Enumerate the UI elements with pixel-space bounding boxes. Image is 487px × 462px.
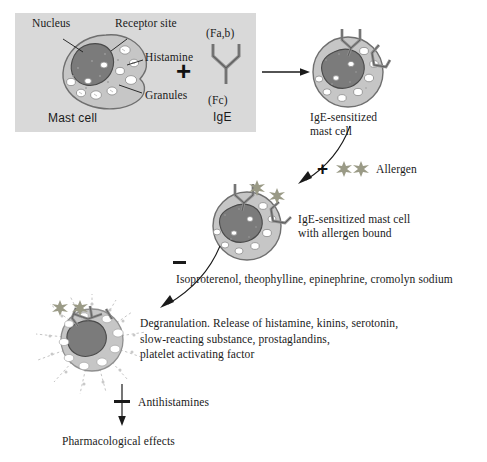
antibody-label-fab: (Fa,b) xyxy=(206,26,234,40)
label-degranulation-products: Degranulation. Release of histamine, kin… xyxy=(140,316,398,363)
label-bound-mast-cell: IgE-sensitized mast cell with allergen b… xyxy=(298,212,410,240)
degranulating-mast-cell-illustration xyxy=(28,288,156,398)
legend-label-receptor-site: Receptor site xyxy=(115,16,177,30)
degranulation-allergen-particles xyxy=(52,300,92,316)
ige-antibody-illustration xyxy=(207,42,245,92)
figure-canvas: Nucleus Receptor site Histamine Granules… xyxy=(0,0,487,462)
label-antihistamines: Antihistamines xyxy=(138,395,209,409)
legend-label-granules: Granules xyxy=(145,88,187,102)
allergen-plus-sign: + xyxy=(317,159,328,178)
label-inhibitor-drugs: Isoproterenol, theophylline, epinephrine… xyxy=(176,272,453,286)
antihistamine-minus-sign xyxy=(114,400,130,403)
legend-plus-sign: + xyxy=(176,58,191,84)
antibody-label-ige: IgE xyxy=(213,110,232,125)
legend-label-nucleus: Nucleus xyxy=(32,16,70,30)
label-allergen: Allergen xyxy=(376,162,417,176)
arrow-to-pharmacological-effects xyxy=(112,384,132,428)
inhibitor-minus-sign xyxy=(173,261,186,264)
sensitized-mast-cell-illustration xyxy=(306,28,392,110)
antibody-label-fc: (Fc) xyxy=(208,93,228,107)
allergen-particle-icon xyxy=(336,161,370,177)
legend-label-mast-cell: Mast cell xyxy=(48,111,97,126)
label-pharmacological-effects: Pharmacological effects xyxy=(62,434,175,448)
